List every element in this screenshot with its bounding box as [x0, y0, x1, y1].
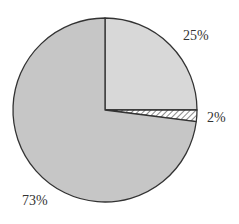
pie-slices [13, 18, 197, 202]
slice-label-2: 2% [207, 110, 226, 125]
slice-label-73: 73% [22, 193, 48, 208]
pie-chart: 25% 2% 73% [0, 0, 239, 224]
slice-label-25: 25% [183, 28, 209, 43]
